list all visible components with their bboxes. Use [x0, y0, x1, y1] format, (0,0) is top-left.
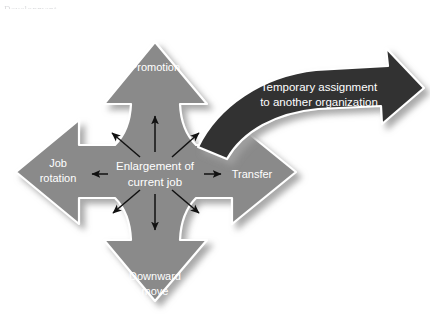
label-temporary-assignment-line2: to another organization: [260, 96, 378, 108]
label-temporary-assignment-line1: Temporary assignment: [261, 81, 378, 93]
label-promotion: Promotion: [130, 61, 180, 73]
figure-canvas: Development: [0, 0, 430, 334]
label-job-rotation-line2: rotation: [40, 172, 77, 184]
label-downward-move-line1: Downward: [129, 270, 181, 282]
label-center-line1: Enlargement of: [116, 160, 195, 172]
label-downward-move-line2: move: [142, 285, 169, 297]
label-job-rotation-line1: Job: [49, 157, 67, 169]
label-center-line2: current job: [128, 176, 182, 188]
label-transfer: Transfer: [232, 168, 273, 180]
career-movement-diagram: Promotion Job rotation Enlargement of cu…: [0, 0, 430, 334]
